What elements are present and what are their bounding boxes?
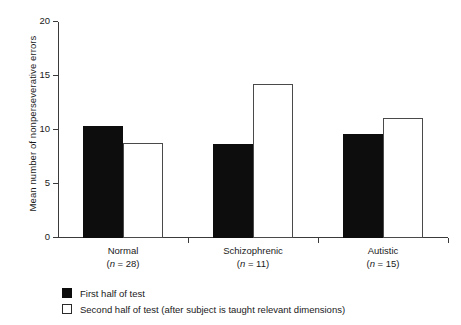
y-axis-tick-label: 0	[45, 231, 50, 242]
x-axis-tick	[188, 238, 189, 243]
chart-legend: First half of testSecond half of test (a…	[62, 285, 345, 317]
bar-autistic-second-half	[383, 118, 423, 238]
group-name: Schizophrenic	[223, 245, 283, 256]
legend-swatch-open	[62, 304, 72, 314]
legend-item: First half of test	[62, 285, 345, 301]
group-name: Autistic	[368, 245, 399, 256]
y-axis-tick-label: 20	[39, 15, 50, 26]
bar-schizophrenic-second-half	[253, 84, 293, 238]
y-axis-tick: 10	[53, 129, 58, 130]
group-sample-size: (n = 11)	[193, 257, 313, 270]
x-axis-tick	[448, 238, 449, 243]
legend-label: Second half of test (after subject is ta…	[80, 304, 345, 315]
bar-schizophrenic-first-half	[213, 144, 253, 238]
y-axis-line	[58, 22, 59, 238]
group-sample-size: (n = 15)	[323, 257, 443, 270]
y-axis-title: Mean number of nonperseverative errors	[27, 24, 38, 224]
bar-autistic-first-half	[343, 134, 383, 238]
x-axis-group-label: Schizophrenic(n = 11)	[193, 244, 313, 270]
bar-chart-figure: Mean number of nonperseverative errors 0…	[0, 0, 461, 325]
y-axis-tick: 20	[53, 21, 58, 22]
x-axis-tick	[318, 238, 319, 243]
plot-area: 05101520	[58, 22, 448, 238]
x-axis-group-label: Autistic(n = 15)	[323, 244, 443, 270]
y-axis-tick-label: 15	[39, 69, 50, 80]
legend-item: Second half of test (after subject is ta…	[62, 301, 345, 317]
group-sample-size: (n = 28)	[63, 257, 183, 270]
bar-normal-first-half	[83, 126, 123, 238]
x-axis-group-label: Normal(n = 28)	[63, 244, 183, 270]
legend-swatch-filled	[62, 288, 72, 298]
y-axis-tick-label: 5	[45, 177, 50, 188]
y-axis-tick-label: 10	[39, 123, 50, 134]
y-axis-tick: 15	[53, 75, 58, 76]
bar-normal-second-half	[123, 143, 163, 238]
legend-label: First half of test	[80, 288, 145, 299]
y-axis-tick: 0	[53, 237, 58, 238]
y-axis-tick: 5	[53, 183, 58, 184]
group-name: Normal	[108, 245, 139, 256]
